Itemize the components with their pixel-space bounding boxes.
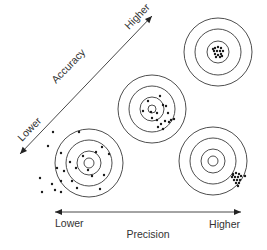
shot-dot: [238, 182, 240, 184]
target-low-accuracy-low-precision: [39, 129, 123, 197]
shot-dot: [71, 180, 73, 182]
accuracy-axis-line: [20, 16, 152, 154]
precision-axis: Lower Higher Precision: [55, 209, 241, 240]
shot-dot: [217, 46, 219, 48]
target-ring: [179, 127, 247, 195]
shot-dot: [232, 174, 234, 176]
target-ring: [184, 18, 252, 86]
shot-dot: [47, 145, 49, 147]
shot-dot: [162, 128, 164, 130]
precision-high-label: Higher: [209, 218, 240, 230]
shot-dot: [239, 179, 241, 181]
precision-title: Precision: [126, 228, 169, 240]
shot-dot: [220, 47, 222, 49]
shot-dot: [147, 100, 149, 102]
shot-dot: [164, 120, 166, 122]
shot-dot: [162, 104, 164, 106]
accuracy-title: Accuracy: [49, 45, 88, 85]
shot-dot: [56, 167, 58, 169]
shot-dot: [51, 183, 53, 185]
shot-dot: [60, 180, 62, 182]
shot-dot: [150, 111, 152, 113]
shot-dot: [215, 56, 217, 58]
shot-dot: [103, 174, 105, 176]
target-ring: [208, 156, 218, 166]
shot-dot: [69, 161, 71, 163]
shot-dot: [156, 119, 158, 121]
shot-dot: [214, 53, 216, 55]
shot-dot: [235, 172, 237, 174]
shot-dot: [75, 167, 77, 169]
shot-dot: [76, 187, 78, 189]
target-ring: [77, 151, 101, 175]
shot-dot: [235, 182, 237, 184]
shot-dot: [244, 175, 246, 177]
shot-dot: [87, 169, 89, 171]
target-ring: [66, 140, 112, 186]
shot-dot: [212, 48, 214, 50]
arrowhead-right-icon: [234, 209, 241, 215]
accuracy-low-label: Lower: [15, 114, 44, 143]
target-ring: [195, 29, 241, 75]
shot-dot: [236, 179, 238, 181]
shot-dot: [63, 170, 65, 172]
shot-dot: [167, 112, 169, 114]
target-ring: [201, 149, 225, 173]
target-low-accuracy-high-precision: [179, 127, 247, 195]
accuracy-high-label: Higher: [122, 0, 152, 31]
shot-dot: [78, 131, 80, 133]
shot-dot: [39, 177, 41, 179]
target-ring: [55, 129, 123, 197]
accuracy-precision-diagram: Lower Accuracy Higher Lower Higher Preci…: [0, 0, 267, 250]
shot-dot: [237, 185, 239, 187]
shot-dot: [54, 189, 56, 191]
shot-dot: [238, 173, 240, 175]
shot-dot: [156, 112, 158, 114]
shot-dot: [41, 191, 43, 193]
shot-dot: [217, 54, 219, 56]
shot-dot: [52, 131, 54, 133]
shot-dot: [95, 151, 97, 153]
shot-dot: [108, 153, 110, 155]
precision-low-label: Lower: [55, 217, 84, 229]
targets: [39, 18, 252, 197]
shot-dot: [234, 176, 236, 178]
target-ring: [207, 41, 229, 63]
shot-dot: [165, 105, 167, 107]
target-high-accuracy-high-precision: [184, 18, 252, 86]
target-ring: [84, 158, 94, 168]
target-ring: [129, 86, 175, 132]
shot-dot: [142, 110, 144, 112]
shot-dot: [60, 152, 62, 154]
shot-dot: [233, 179, 235, 181]
shot-dot: [99, 188, 101, 190]
shot-dot: [173, 118, 175, 120]
shot-dot: [91, 175, 93, 177]
shot-dot: [221, 55, 223, 57]
shot-dot: [219, 50, 221, 52]
shot-dot: [237, 176, 239, 178]
shot-dot: [170, 119, 172, 121]
shot-dot: [151, 117, 153, 119]
shot-dot: [168, 121, 170, 123]
shot-dot: [60, 191, 62, 193]
target-ring: [118, 75, 186, 143]
shot-dot: [159, 95, 161, 97]
shot-dot: [157, 126, 159, 128]
shot-dot: [82, 155, 84, 157]
arrowhead-left-icon: [55, 209, 62, 215]
target-medium-accuracy-medium-precision: [118, 75, 186, 143]
shot-dot: [101, 146, 103, 148]
shot-dot: [216, 50, 218, 52]
shot-dot: [160, 123, 162, 125]
target-ring: [190, 138, 236, 184]
accuracy-axis: Lower Accuracy Higher: [15, 0, 152, 154]
shot-dot: [240, 175, 242, 177]
shot-dot: [222, 50, 224, 52]
